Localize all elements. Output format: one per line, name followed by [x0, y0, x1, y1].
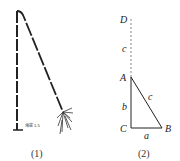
bamboo-leaves: [57, 108, 73, 134]
hypotenuse-c: [131, 77, 162, 128]
label-a: a: [144, 130, 149, 141]
point-C: C: [120, 123, 127, 134]
figure-2-triangle: D c A b c C a B (2): [119, 14, 171, 160]
label-b: b: [122, 101, 127, 112]
point-A: A: [119, 72, 127, 83]
figure-1-caption: (1): [31, 148, 43, 160]
figure-1-bamboo: 海拔 1.5 (1): [13, 11, 73, 160]
bent-bamboo-top: [17, 11, 63, 112]
label-c-extension: c: [122, 43, 127, 54]
point-B: B: [165, 123, 171, 134]
water-level-annotation: 海拔 1.5: [25, 122, 40, 128]
diagram-canvas: 海拔 1.5 (1) D c A b c C a B (2): [0, 0, 180, 161]
point-D: D: [119, 14, 128, 25]
label-c-hypotenuse: c: [148, 91, 153, 102]
figure-2-caption: (2): [138, 148, 150, 160]
